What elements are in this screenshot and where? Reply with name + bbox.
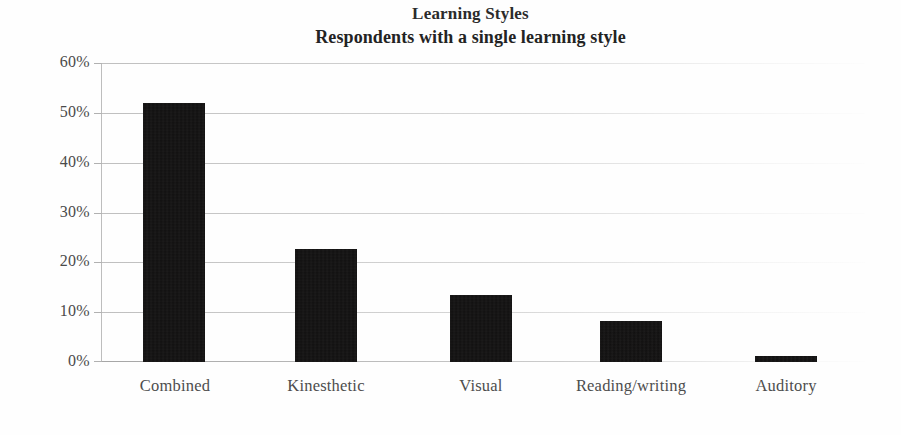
y-tick-label-40: 40%: [28, 153, 90, 171]
bar-visual: [450, 295, 512, 362]
bar-combined: [143, 103, 205, 362]
bar-kinesthetic: [295, 249, 357, 362]
x-axis-labels: Combined Kinesthetic Visual Reading/writ…: [101, 376, 865, 404]
y-tick-mark-30: [94, 213, 101, 214]
y-tick-mark-50: [94, 113, 101, 114]
y-tick-mark-0: [94, 361, 101, 362]
x-category-label-reading-writing: Reading/writing: [550, 376, 712, 396]
bar-auditory: [755, 356, 817, 362]
y-tick-label-60: 60%: [28, 53, 90, 71]
y-tick-label-20: 20%: [28, 252, 90, 270]
y-tick-mark-10: [94, 312, 101, 313]
y-tick-label-30: 30%: [28, 203, 90, 221]
y-tick-mark-60: [94, 63, 101, 64]
y-tick-label-50: 50%: [28, 103, 90, 121]
x-category-label-kinesthetic: Kinesthetic: [245, 376, 407, 396]
chart-subtitle: Respondents with a single learning style: [40, 25, 901, 49]
chart-screenshot: Learning Styles Respondents with a singl…: [0, 0, 901, 435]
x-category-label-visual: Visual: [400, 376, 562, 396]
bar-series: [101, 63, 865, 362]
y-tick-label-10: 10%: [28, 302, 90, 320]
y-tick-mark-40: [94, 163, 101, 164]
chart-title-block: Learning Styles Respondents with a singl…: [0, 2, 901, 49]
x-category-label-combined: Combined: [94, 376, 256, 396]
page-title: Learning Styles: [40, 2, 901, 25]
bar-reading-writing: [600, 321, 662, 362]
y-tick-mark-20: [94, 262, 101, 263]
y-axis-labels: 60% 50% 40% 30% 20% 10% 0%: [28, 63, 90, 362]
y-tick-label-0: 0%: [28, 352, 90, 370]
x-category-label-auditory: Auditory: [705, 376, 867, 396]
